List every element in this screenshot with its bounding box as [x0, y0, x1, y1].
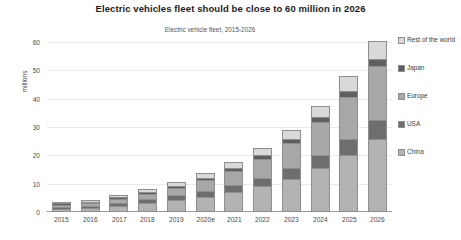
legend-label: USA	[407, 120, 420, 128]
stacked-bar[interactable]	[138, 189, 157, 212]
bar-segment-china[interactable]	[53, 210, 70, 211]
bar-segment-europe[interactable]	[168, 189, 185, 196]
bar-segment-china[interactable]	[197, 198, 214, 211]
y-axis-tick-label: 40	[0, 95, 40, 102]
bar-segment-japan[interactable]	[369, 60, 386, 68]
stacked-bar[interactable]	[224, 162, 243, 212]
x-axis-tick-label: 2024	[313, 216, 328, 223]
stacked-bar[interactable]	[282, 130, 301, 212]
y-axis-tick-label: 30	[0, 124, 40, 131]
y-axis-tick-label: 0	[0, 209, 40, 216]
bar-segment-usa[interactable]	[369, 121, 386, 140]
legend-item-japan[interactable]: Japan	[398, 64, 461, 72]
legend-item-europe[interactable]: Europe	[398, 92, 461, 100]
bar-group-2026[interactable]	[363, 42, 392, 212]
bar-segment-rest-of-the-world[interactable]	[254, 149, 271, 156]
y-axis-tick-label: 60	[0, 39, 40, 46]
x-axis-tick-label: 2015	[54, 216, 69, 223]
bar-segment-usa[interactable]	[340, 140, 357, 156]
bar-group-2023[interactable]	[277, 42, 306, 212]
x-axis-tick-label: 2019	[169, 216, 184, 223]
chart-legend: Rest of the worldJapanEuropeUSAChina	[398, 36, 461, 176]
stacked-bar[interactable]	[109, 195, 128, 212]
bar-segment-rest-of-the-world[interactable]	[312, 107, 329, 118]
stacked-bar[interactable]	[311, 106, 330, 212]
legend-label: China	[407, 148, 424, 156]
stacked-bar[interactable]	[368, 41, 387, 212]
bar-group-2015[interactable]	[47, 42, 76, 212]
stacked-bar[interactable]	[339, 76, 358, 212]
bar-segment-china[interactable]	[110, 207, 127, 211]
x-axis-tick-label: 2026	[370, 216, 385, 223]
bar-group-2022[interactable]	[248, 42, 277, 212]
bar-group-2017[interactable]	[105, 42, 134, 212]
bar-segment-usa[interactable]	[283, 169, 300, 180]
legend-swatch-icon	[398, 37, 405, 44]
y-axis-tick-label: 20	[0, 152, 40, 159]
bar-segment-rest-of-the-world[interactable]	[283, 131, 300, 140]
stacked-bar[interactable]	[81, 200, 100, 212]
legend-item-china[interactable]: China	[398, 148, 461, 156]
legend-swatch-icon	[398, 149, 405, 156]
bar-group-2016[interactable]	[76, 42, 105, 212]
legend-swatch-icon	[398, 65, 405, 72]
x-axis-tick-label: 2022	[255, 216, 270, 223]
bar-segment-china[interactable]	[340, 156, 357, 211]
bar-segment-europe[interactable]	[225, 172, 242, 186]
bar-segment-europe[interactable]	[312, 123, 329, 155]
stacked-bar[interactable]	[253, 148, 272, 212]
bar-segment-china[interactable]	[82, 209, 99, 211]
bar-segment-china[interactable]	[369, 140, 386, 211]
bar-segment-usa[interactable]	[254, 179, 271, 188]
bar-group-2024[interactable]	[306, 42, 335, 212]
legend-swatch-icon	[398, 121, 405, 128]
x-axis-tick-label: 2021	[227, 216, 242, 223]
bar-segment-rest-of-the-world[interactable]	[340, 77, 357, 91]
chart-container: Electric vehicles fleet should be close …	[0, 0, 461, 240]
chart-title: Electric vehicles fleet should be close …	[0, 3, 461, 14]
bar-segment-china[interactable]	[283, 180, 300, 211]
plot-area: 0102030405060 201520162017201820192020e2…	[47, 42, 392, 212]
chart-subtitle: Electric vehicle fleet, 2015-2026	[0, 26, 420, 33]
bar-group-2025[interactable]	[335, 42, 364, 212]
bar-group-2019[interactable]	[162, 42, 191, 212]
legend-label: Rest of the world	[407, 36, 455, 44]
bar-segment-china[interactable]	[312, 169, 329, 212]
x-axis-tick-label: 2018	[140, 216, 155, 223]
bar-segment-europe[interactable]	[340, 98, 357, 140]
x-axis-tick-label: 2017	[112, 216, 127, 223]
bar-group-2020e[interactable]	[191, 42, 220, 212]
bar-segment-europe[interactable]	[254, 160, 271, 179]
bar-segment-china[interactable]	[139, 204, 156, 211]
bar-segment-china[interactable]	[254, 187, 271, 211]
legend-label: Europe	[407, 92, 428, 100]
x-axis-tick-label: 2025	[342, 216, 357, 223]
bar-segment-china[interactable]	[168, 201, 185, 211]
bar-segment-usa[interactable]	[312, 156, 329, 169]
bar-group-2021[interactable]	[220, 42, 249, 212]
legend-swatch-icon	[398, 93, 405, 100]
x-axis-tick-label: 2020e	[197, 216, 215, 223]
legend-item-usa[interactable]: USA	[398, 120, 461, 128]
stacked-bar[interactable]	[167, 182, 186, 212]
bar-segment-europe[interactable]	[197, 181, 214, 191]
stacked-bar[interactable]	[196, 173, 215, 212]
bar-segment-rest-of-the-world[interactable]	[369, 42, 386, 60]
x-axis-tick-label: 2016	[83, 216, 98, 223]
legend-item-rest-of-the-world[interactable]: Rest of the world	[398, 36, 461, 44]
bar-segment-usa[interactable]	[225, 186, 242, 194]
x-axis-tick-label: 2023	[284, 216, 299, 223]
y-axis-tick-label: 10	[0, 180, 40, 187]
legend-label: Japan	[407, 64, 424, 72]
bar-group-2018[interactable]	[133, 42, 162, 212]
y-axis-tick-label: 50	[0, 67, 40, 74]
bar-segment-china[interactable]	[225, 193, 242, 211]
bar-series-group	[47, 42, 392, 212]
stacked-bar[interactable]	[52, 202, 71, 212]
bar-segment-europe[interactable]	[369, 67, 386, 120]
bar-segment-europe[interactable]	[283, 144, 300, 169]
